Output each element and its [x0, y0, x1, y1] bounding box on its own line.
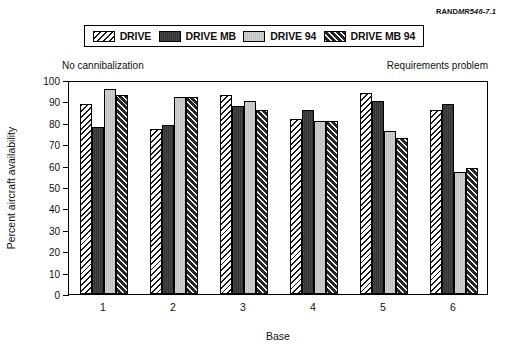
bar-drive-94-base-6 [454, 172, 466, 294]
y-axis-tick-label: 50 [49, 183, 60, 194]
legend-entry-drive: DRIVE [93, 30, 152, 42]
x-axis-category-label: 6 [450, 301, 456, 313]
bar-drive-mb-94-base-1 [116, 95, 128, 294]
y-axis-title: Percent aircraft availability [5, 127, 17, 250]
annotation-requirements-problem: Requirements problem [387, 60, 488, 71]
bar-drive-94-base-4 [314, 121, 326, 294]
bar-drive-94-base-5 [384, 131, 396, 294]
bar-drive-base-4 [290, 119, 302, 294]
y-axis-tick-label: 80 [49, 118, 60, 129]
x-axis-category-label: 5 [380, 301, 386, 313]
x-axis-category-label: 1 [100, 301, 106, 313]
y-axis-tick [63, 295, 69, 296]
bar-drive-base-1 [80, 104, 92, 294]
bar-group [139, 81, 209, 294]
chart-legend: DRIVE DRIVE MB DRIVE 94 DRIVE MB 94 [84, 25, 424, 47]
y-axis-tick-label: 60 [49, 161, 60, 172]
bar-drive-base-5 [360, 93, 372, 294]
rand-report-code: MR546-7.1 [458, 7, 496, 16]
bar-drive-mb-base-3 [232, 106, 244, 294]
y-axis-tick-label: 70 [49, 140, 60, 151]
bar-drive-mb-94-base-3 [256, 110, 268, 294]
legend-entry-drive-mb-94: DRIVE MB 94 [324, 30, 416, 42]
annotation-no-cannibalization: No cannibalization [62, 60, 144, 71]
bar-drive-mb-base-5 [372, 101, 384, 294]
x-axis-title: Base [68, 330, 488, 342]
legend-label-drive: DRIVE [120, 30, 152, 42]
legend-label-drive-mb: DRIVE MB [186, 30, 237, 42]
y-axis-tick-label: 90 [49, 97, 60, 108]
bar-drive-base-2 [150, 129, 162, 294]
x-axis-category-label: 3 [240, 301, 246, 313]
legend-swatch-drive-icon [93, 31, 115, 42]
x-axis-category-label: 2 [170, 301, 176, 313]
y-axis-tick-label: 30 [49, 225, 60, 236]
bar-group [279, 81, 349, 294]
bar-drive-mb-94-base-4 [326, 121, 338, 294]
legend-swatch-drive-94-icon [243, 31, 265, 42]
legend-swatch-drive-mb-icon [159, 31, 181, 42]
bar-drive-mb-base-2 [162, 125, 174, 294]
legend-label-drive-94: DRIVE 94 [270, 30, 316, 42]
y-axis-tick-label: 100 [43, 76, 60, 87]
plot-area: 0102030405060708090100 [68, 81, 488, 295]
bar-drive-mb-base-6 [442, 104, 454, 294]
source-identifier: RANDMR546-7.1 [436, 7, 496, 16]
bar-drive-mb-base-1 [92, 127, 104, 294]
y-axis-tick-label: 0 [54, 290, 60, 301]
bar-drive-94-base-3 [244, 101, 256, 294]
y-axis-tick-label: 10 [49, 268, 60, 279]
bar-drive-94-base-2 [174, 97, 186, 294]
legend-swatch-drive-mb-94-icon [324, 31, 346, 42]
y-axis-tick-label: 20 [49, 247, 60, 258]
x-axis-category-label: 4 [310, 301, 316, 313]
bar-group [209, 81, 279, 294]
bar-drive-base-3 [220, 95, 232, 294]
bar-group [349, 81, 419, 294]
legend-label-drive-mb-94: DRIVE MB 94 [351, 30, 416, 42]
bar-group [419, 81, 489, 294]
bar-group [69, 81, 139, 294]
bar-drive-base-6 [430, 110, 442, 294]
y-axis-tick-label: 40 [49, 204, 60, 215]
bar-drive-mb-base-4 [302, 110, 314, 294]
rand-brand-label: RAND [436, 7, 458, 16]
bar-drive-mb-94-base-2 [186, 97, 198, 294]
bar-drive-94-base-1 [104, 89, 116, 294]
bar-drive-mb-94-base-5 [396, 138, 408, 294]
legend-entry-drive-94: DRIVE 94 [243, 30, 316, 42]
legend-entry-drive-mb: DRIVE MB [159, 30, 237, 42]
bar-drive-mb-94-base-6 [466, 168, 478, 294]
